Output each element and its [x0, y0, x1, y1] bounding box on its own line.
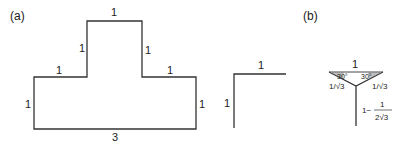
right-branch-length: 1/√3 [372, 82, 388, 91]
angle-right-label: 30° [361, 73, 372, 80]
corner-top-length: 1 [258, 59, 264, 71]
t-left-side-length: 1 [25, 98, 31, 110]
stem-length-denominator: 2√3 [375, 113, 389, 122]
left-branch-length: 1/√3 [329, 82, 345, 91]
angle-left-label: 30° [337, 73, 348, 80]
diagram-canvas: (a) 1 1 1 1 1 1 1 3 (b) 1 1 1 30° 30° 1/… [0, 0, 398, 150]
panel-b-label: (b) [303, 9, 318, 23]
t-left-shoulder-length: 1 [56, 64, 62, 76]
corner-path [234, 74, 286, 128]
t-bottom-length: 3 [112, 131, 118, 143]
t-right-upper-length: 1 [145, 44, 151, 56]
t-top-length: 1 [111, 6, 117, 18]
t-right-side-length: 1 [199, 98, 205, 110]
t-right-shoulder-length: 1 [167, 64, 173, 76]
panel-a-label: (a) [10, 9, 25, 23]
stem-length-numerator: 1 [380, 100, 385, 109]
corner-side-length: 1 [224, 97, 230, 109]
stem-length-prefix: 1− [362, 106, 371, 115]
steiner-top-length: 1 [352, 58, 358, 70]
t-left-upper-length: 1 [79, 42, 85, 54]
